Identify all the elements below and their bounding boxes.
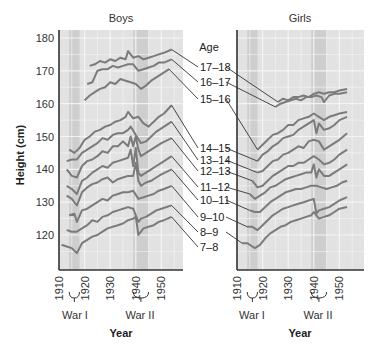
y-tick-label: 120 <box>36 229 54 241</box>
girls-war2-label: War II <box>304 309 333 321</box>
height-trend-chart: 1201301401501601701801910192019301940195… <box>0 0 376 352</box>
age-label-9-10: 9–10 <box>200 211 224 223</box>
y-tick-label: 130 <box>36 196 54 208</box>
girls-x-tick-label: 1950 <box>333 276 345 300</box>
y-axis-title: Height (cm) <box>14 124 26 185</box>
y-tick-label: 170 <box>36 65 54 77</box>
age-label-16-17: 16–17 <box>200 76 231 88</box>
age-label-7-8: 7–8 <box>200 241 218 253</box>
girls-x-tick-label: 1920 <box>257 276 269 300</box>
boys-x-tick-label: 1950 <box>155 276 167 300</box>
y-tick-label: 150 <box>36 131 54 143</box>
boys-x-tick-label: 1910 <box>53 276 65 300</box>
age-label-8-9: 8–9 <box>200 226 218 238</box>
boys-panel: 1201301401501601701801910192019301940195… <box>36 30 198 302</box>
age-label-14-15: 14–15 <box>200 142 231 154</box>
girls-x-tick-label: 1930 <box>282 276 294 300</box>
girls-x-axis-title: Year <box>288 327 312 339</box>
girls-war-band-1 <box>247 30 257 270</box>
age-label-10-11: 10–11 <box>200 194 230 206</box>
boys-war1-label: War I <box>62 309 88 321</box>
y-tick-label: 140 <box>36 163 54 175</box>
boys-x-tick-label: 1930 <box>104 276 116 300</box>
y-tick-label: 160 <box>36 98 54 110</box>
boys-title: Boys <box>109 12 134 24</box>
age-label-11-12: 11–12 <box>200 181 230 193</box>
age-label-12-13: 12–13 <box>200 165 231 177</box>
y-tick-label: 180 <box>36 32 54 44</box>
boys-x-axis-title: Year <box>109 327 133 339</box>
boys-war2-label: War II <box>126 309 155 321</box>
girls-war1-label: War I <box>239 309 265 321</box>
girls-panel: 19101920193019401950 <box>226 30 364 302</box>
girls-title: Girls <box>289 12 312 24</box>
age-label-17-18: 17–18 <box>200 61 231 73</box>
girls-x-tick-label: 1910 <box>231 276 243 300</box>
age-label-15-16: 15–16 <box>200 93 231 105</box>
boys-x-tick-label: 1920 <box>79 276 91 300</box>
age-header: Age <box>199 41 219 53</box>
